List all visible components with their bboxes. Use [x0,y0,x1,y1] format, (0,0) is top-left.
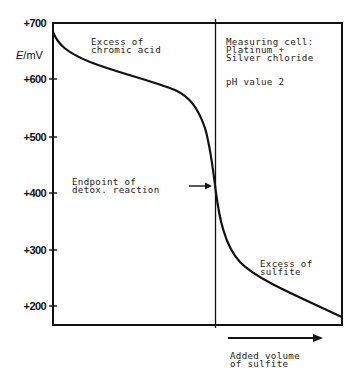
x-axis-title-line2: of sulfite [230,358,288,369]
plot-frame [53,23,342,325]
y-tick-500: +500 [24,131,47,143]
x-axis-arrow-icon [228,334,323,342]
titration-chart: +700 +600 +500 +400 +300 +200 E/mV Exces… [0,0,358,385]
y-tick-300: +300 [24,244,47,256]
y-axis-title: E/mV [16,49,44,61]
annotation-excess-sulfite-line2: sulfite [260,266,301,277]
y-tick-400: +400 [24,187,47,199]
annotation-endpoint-line2: detox. reaction [72,184,159,195]
annotation-measuring-cell-line3: Silver chloride [226,52,313,63]
endpoint-arrow-icon [189,183,212,190]
y-tick-600: +600 [24,73,47,85]
y-tick-700: +700 [24,17,47,29]
y-tick-200: +200 [24,300,47,312]
annotation-excess-chromic-acid-line2: chromic acid [91,44,161,55]
annotation-ph-value: pH value 2 [226,76,284,87]
